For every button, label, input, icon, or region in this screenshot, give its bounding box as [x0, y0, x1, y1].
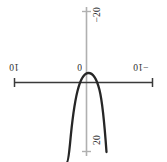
x-axis-label-left: 10: [9, 62, 19, 72]
plot-canvas: [0, 0, 167, 162]
x-axis-label-right: −10: [133, 62, 148, 72]
y-axis: [82, 7, 91, 156]
x-axis: [14, 78, 153, 87]
y-axis-label-bottom: −20: [92, 7, 102, 22]
origin-label: 0: [77, 62, 82, 72]
plot-rotated-content: [0, 0, 167, 162]
y-axis-label-top: 20: [92, 135, 102, 145]
plot-figure: 10 −10 0 20 −20: [0, 0, 167, 162]
